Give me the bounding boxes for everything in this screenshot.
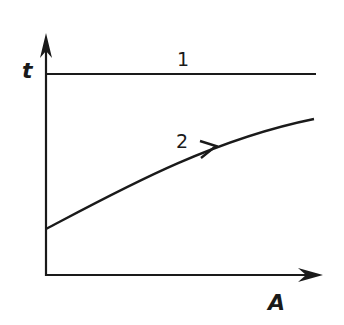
diagram-canvas: t A 1 2	[0, 0, 344, 325]
x-axis-label: A	[268, 292, 285, 314]
curve-1-label: 1	[177, 50, 189, 69]
diagram-svg	[0, 0, 344, 325]
y-axis-label: t	[22, 60, 33, 82]
curve-2-label: 2	[176, 132, 188, 151]
